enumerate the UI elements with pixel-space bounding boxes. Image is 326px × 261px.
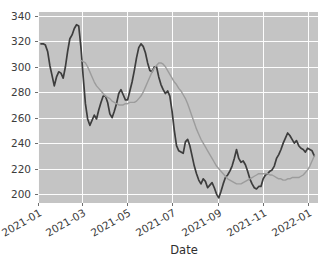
y-tick-label: 200 — [11, 188, 31, 200]
y-tick-label: 240 — [11, 137, 31, 149]
y-tick-label: 300 — [11, 61, 31, 73]
line-chart: 200220240260280300320340 2021-012021-032… — [0, 0, 326, 261]
x-axis-title: Date — [170, 243, 198, 257]
y-tick-label: 320 — [11, 35, 31, 47]
y-tick-label: 280 — [11, 86, 31, 98]
y-tick-label: 220 — [11, 163, 31, 175]
y-tick-label: 340 — [11, 10, 31, 22]
y-tick-label: 260 — [11, 112, 31, 124]
chart-figure: 200220240260280300320340 2021-012021-032… — [0, 0, 326, 261]
